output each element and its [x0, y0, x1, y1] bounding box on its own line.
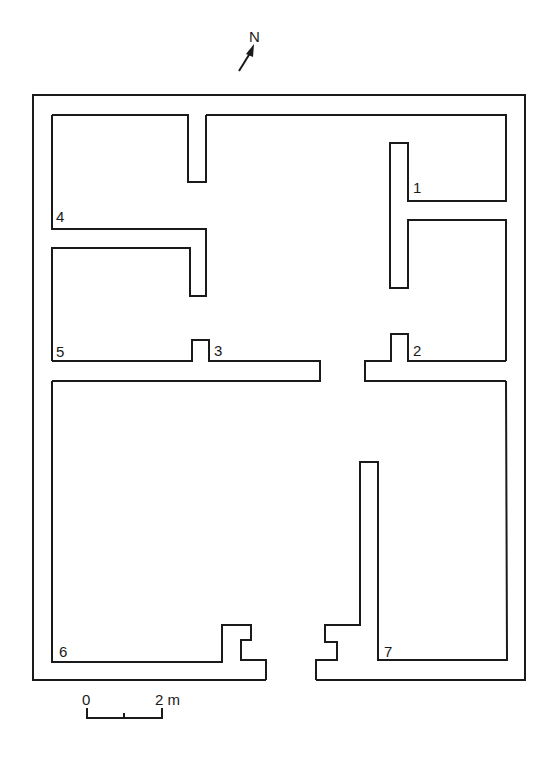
room-label-2: 2	[413, 342, 421, 359]
room-label-7: 7	[384, 643, 392, 660]
outer-wall	[33, 95, 525, 680]
room-label-4: 4	[56, 208, 64, 225]
room-5-south-wall	[52, 340, 320, 381]
lower-hall-west-wall	[52, 381, 266, 680]
north-inner-wall	[206, 115, 506, 361]
scale-end-label: 2 m	[155, 691, 180, 708]
room-4-wall	[52, 115, 206, 182]
scale-start-label: 0	[82, 691, 90, 708]
floor-plan: 1 2 3 4 5 6 7 N 0 2 m	[0, 0, 552, 760]
room-label-1: 1	[413, 179, 421, 196]
room-label-3: 3	[214, 342, 222, 359]
room-4-south-wall	[52, 115, 206, 361]
room-label-5: 5	[56, 343, 64, 360]
scale-bar: 0 2 m	[82, 691, 180, 718]
room-7-wall	[316, 381, 507, 680]
room-2-south-wall	[365, 334, 506, 381]
north-label: N	[249, 28, 260, 45]
north-arrow-icon	[239, 44, 254, 71]
room-label-6: 6	[59, 643, 67, 660]
